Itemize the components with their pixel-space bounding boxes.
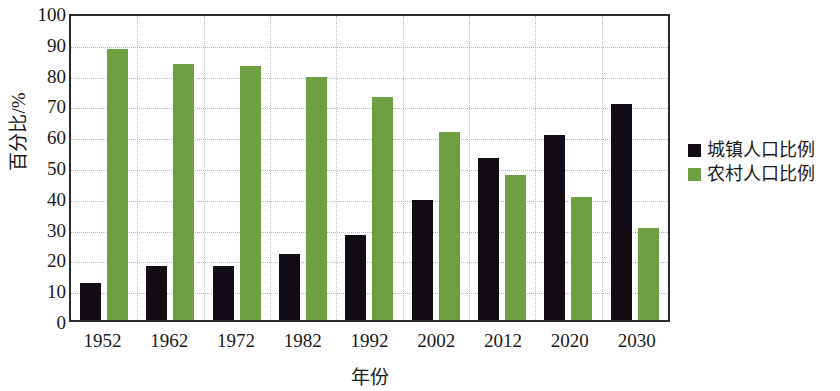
- x-tick-label: 2030: [603, 330, 670, 352]
- x-tick-label: 1962: [136, 330, 203, 352]
- bar: [306, 77, 327, 320]
- x-axis-title: 年份: [69, 362, 670, 389]
- legend-swatch-icon: [688, 144, 701, 157]
- y-tick-label: 100: [26, 5, 66, 24]
- x-tick-label: 1952: [69, 330, 136, 352]
- y-tick-label: 0: [26, 313, 66, 332]
- x-axis-tick-labels: 195219621972198219922002201220202030: [69, 330, 670, 352]
- bar: [345, 235, 366, 320]
- bar: [173, 64, 194, 320]
- x-tick-label: 1982: [269, 330, 336, 352]
- legend-label: 城镇人口比例: [707, 141, 815, 159]
- bar-group: [535, 16, 601, 320]
- bar: [372, 97, 393, 320]
- bar: [611, 104, 632, 320]
- bar: [505, 175, 526, 320]
- y-tick-label: 70: [26, 97, 66, 116]
- bar: [544, 135, 565, 320]
- x-tick-label: 1972: [203, 330, 270, 352]
- bar: [638, 228, 659, 320]
- x-tick-label: 2020: [536, 330, 603, 352]
- bar-group: [137, 16, 203, 320]
- bar-groups: [71, 16, 668, 320]
- bar-group: [403, 16, 469, 320]
- legend-item: 农村人口比例: [688, 165, 815, 183]
- bar: [571, 197, 592, 320]
- bar-chart: 百分比/% 1009080706050403020100 19521962197…: [0, 0, 840, 391]
- bar: [240, 66, 261, 320]
- bar: [80, 283, 101, 320]
- y-tick-label: 30: [26, 220, 66, 239]
- plot-area: [69, 14, 670, 322]
- bar: [439, 132, 460, 320]
- bar: [279, 254, 300, 320]
- x-tick-label: 2002: [403, 330, 470, 352]
- legend-swatch-icon: [688, 168, 701, 181]
- bar-group: [469, 16, 535, 320]
- x-tick-label: 1992: [336, 330, 403, 352]
- bar-group: [336, 16, 402, 320]
- bar-group: [204, 16, 270, 320]
- y-tick-label: 80: [26, 66, 66, 85]
- bar: [107, 49, 128, 320]
- bar: [146, 266, 167, 320]
- legend-label: 农村人口比例: [707, 165, 815, 183]
- bar: [478, 158, 499, 320]
- legend-item: 城镇人口比例: [688, 141, 815, 159]
- y-tick-label: 10: [26, 282, 66, 301]
- y-tick-label: 20: [26, 251, 66, 270]
- legend: 城镇人口比例农村人口比例: [688, 141, 815, 183]
- bar-group: [602, 16, 668, 320]
- y-tick-label: 50: [26, 159, 66, 178]
- y-tick-label: 90: [26, 35, 66, 54]
- bar: [412, 200, 433, 320]
- bar-group: [270, 16, 336, 320]
- bar-group: [71, 16, 137, 320]
- x-tick-label: 2012: [470, 330, 537, 352]
- y-axis-tick-labels: 1009080706050403020100: [26, 0, 66, 391]
- bar: [213, 266, 234, 320]
- y-tick-label: 60: [26, 128, 66, 147]
- y-tick-label: 40: [26, 189, 66, 208]
